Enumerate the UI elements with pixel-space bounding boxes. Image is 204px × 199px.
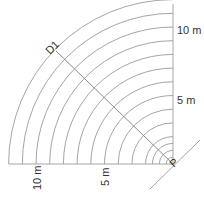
label-vertical-5m: 5 m — [177, 94, 195, 106]
label-horizontal-5m: 5 m — [99, 168, 111, 186]
diagonal-line-d1 — [56, 51, 173, 164]
label-horizontal-10m: 10 m — [31, 166, 43, 190]
label-vertical-10m: 10 m — [177, 24, 201, 36]
distance-arc-diagram: D1 P 10 m 5 m 10 m 5 m — [0, 0, 204, 199]
distance-arc — [9, 0, 173, 164]
distance-arc — [22, 13, 173, 164]
label-p: P — [167, 156, 181, 170]
distance-arcs — [9, 0, 173, 164]
